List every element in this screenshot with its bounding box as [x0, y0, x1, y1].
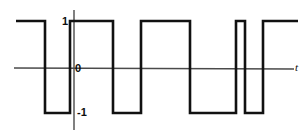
axis-label-low: -1 [77, 107, 87, 118]
waveform-path [16, 21, 298, 113]
axis-label-high: 1 [62, 16, 68, 27]
x-axis-line [14, 68, 294, 69]
axis-label-time: t [295, 62, 298, 73]
waveform-figure: 1 0 -1 t [0, 0, 307, 138]
axis-label-origin: 0 [75, 63, 81, 74]
waveform-canvas [0, 0, 307, 138]
